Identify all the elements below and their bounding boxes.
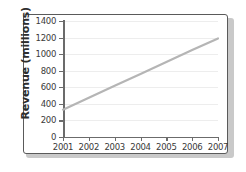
plot-wrapper: Revenue (millions) 020040060080010001200…	[0, 0, 246, 172]
data-series-layer	[0, 0, 246, 172]
revenue-line	[63, 38, 218, 109]
chart-figure: Revenue (millions) 020040060080010001200…	[0, 0, 246, 172]
